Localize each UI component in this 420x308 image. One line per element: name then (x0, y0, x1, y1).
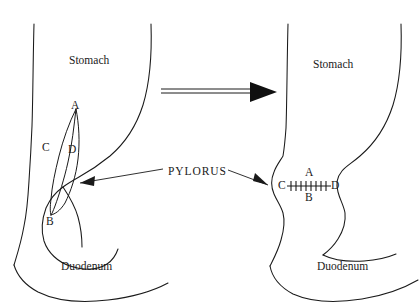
left-point-label-d: D (68, 144, 76, 156)
left-point-label-c: C (42, 142, 50, 154)
left-duodenum-upper-stub (63, 187, 82, 247)
left-incision-outline-anterior (50, 109, 76, 215)
pylorus-right-arrow-icon (228, 170, 268, 185)
left-duodenum-label: Duodenum (61, 261, 112, 273)
right-stomach-lesser-curve (270, 24, 288, 266)
left-stomach-label: Stomach (69, 55, 109, 67)
right-point-label-b: B (305, 192, 313, 204)
right-point-label-d: D (331, 180, 339, 192)
right-duodenum-label: Duodenum (317, 261, 368, 273)
transform-arrow-icon (161, 82, 277, 102)
left-point-label-b: B (46, 216, 54, 228)
right-point-label-c: C (278, 180, 286, 192)
left-incision-inner-seam (51, 109, 76, 215)
pylorus-left-arrow-icon (80, 169, 163, 186)
left-incision-outline-posterior (51, 109, 79, 215)
left-stomach-lesser-curve (14, 24, 34, 265)
left-point-label-a: A (71, 100, 79, 112)
pylorus-label: PYLORUS (168, 166, 227, 178)
right-stomach-label: Stomach (313, 59, 353, 71)
pyloroplasty-figure: Stomach A B C D Duodenum PYLORUS Stomach… (0, 0, 420, 308)
right-point-label-a: A (305, 167, 313, 179)
